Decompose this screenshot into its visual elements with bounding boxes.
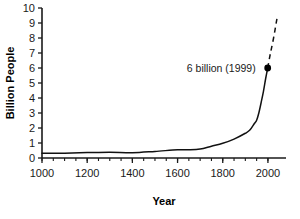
y-tick-label: 1 (29, 137, 35, 149)
x-tick-label: 1200 (75, 167, 99, 179)
six-billion-marker (264, 65, 271, 72)
projection-curve-dashed (268, 19, 277, 69)
y-tick-label: 3 (29, 107, 35, 119)
y-tick-label: 5 (29, 77, 35, 89)
y-axis-tick-labels: 012345678910 (23, 2, 35, 164)
y-tick-label: 6 (29, 62, 35, 74)
x-tick-label: 2000 (256, 167, 280, 179)
x-axis-title: Year (152, 195, 176, 207)
x-tick-label: 1400 (120, 167, 144, 179)
y-axis-title: Billion People (4, 47, 16, 120)
y-tick-label: 7 (29, 47, 35, 59)
y-tick-label: 0 (29, 152, 35, 164)
x-axis-minor-ticks (42, 158, 268, 161)
y-tick-label: 2 (29, 122, 35, 134)
y-tick-label: 10 (23, 2, 35, 14)
x-axis-tick-labels: 100012001400160018002000 (30, 167, 280, 179)
six-billion-annotation: 6 billion (1999) (187, 62, 256, 74)
y-tick-label: 8 (29, 32, 35, 44)
y-tick-label: 9 (29, 17, 35, 29)
population-growth-chart: 012345678910 100012001400160018002000 6 … (0, 0, 300, 219)
x-tick-label: 1000 (30, 167, 54, 179)
x-tick-label: 1600 (165, 167, 189, 179)
chart-canvas: 012345678910 100012001400160018002000 6 … (0, 0, 300, 219)
population-curve (42, 68, 268, 153)
y-tick-label: 4 (29, 92, 35, 104)
x-tick-label: 1800 (210, 167, 234, 179)
